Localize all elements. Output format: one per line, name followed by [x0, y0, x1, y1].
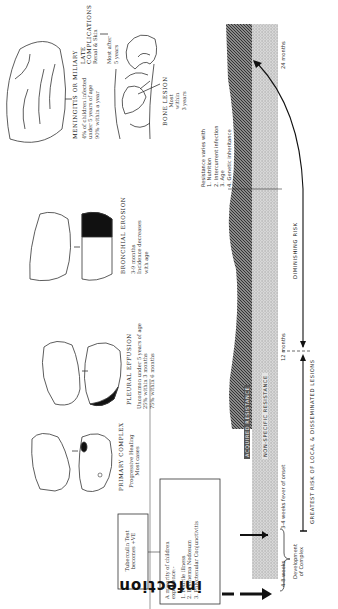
stage-primary-complex: PRIMARY COMPLEX Progressive Healing Most…: [118, 431, 141, 491]
stage-note: Most cases: [134, 431, 140, 491]
stage-bone-lesion: BONE LESION Most within 3 years: [162, 71, 187, 131]
minority-item: 3. Phlyctenular Conjunctivitis: [193, 521, 199, 599]
tuberculin-test-box: Tuberculin Test becomes +VE: [124, 517, 137, 585]
lung-bronchial-erosion: [30, 212, 112, 280]
stage-note: 3 years: [181, 71, 187, 131]
stage-subtitle: Renal & Skin: [92, 4, 98, 64]
minority-heading: A minority of children experience:-: [164, 521, 177, 599]
stage-late-complications: LATE COMPLICATIONS Renal & Skin Most aft…: [80, 4, 119, 64]
infection-arrow: [222, 588, 272, 600]
stage-title: PLEURAL EFFUSION: [126, 329, 132, 409]
lung-primary-complex: [32, 433, 112, 491]
stage-note: 75% within 6 months: [149, 329, 155, 409]
marker-4-8-weeks: 4-8 weeks: [280, 561, 286, 587]
minority-box: A minority of children experience:- 1. F…: [164, 521, 199, 599]
stage-title: MENINGITIS OR MILIARY: [72, 49, 78, 139]
tb-timetable-diagram: infection Tuberculin Test becomes +VE A …: [0, 0, 338, 609]
greatest-risk-label: GREATEST RISK OF LOCAL & DISSEMINATED LE…: [309, 359, 315, 524]
marker-12-months: 12 months: [280, 333, 286, 361]
stage-pleural-effusion: PLEURAL EFFUSION Uncommon under 5 years …: [126, 329, 155, 409]
stage-bronchial-erosion: BRONCHIAL EROSION 3-9 months Incidence d…: [120, 194, 149, 274]
acquired-resistance-label: ACQUIRED RESISTANCE: [244, 385, 250, 459]
stage-title: PRIMARY COMPLEX: [118, 431, 124, 491]
brain-illustration: [7, 42, 72, 143]
resistance-factor: 4. Genetic inheritance: [226, 125, 232, 187]
lung-pleural-effusion: [42, 341, 121, 405]
nonspecific-resistance-label: NON-SPECIFIC RESISTANCE: [262, 373, 268, 459]
development-of-complex-label: Development of Complex: [292, 544, 305, 579]
diminishing-risk-label: DIMINISHING RISK: [292, 222, 298, 279]
stage-note: with age: [143, 194, 149, 274]
stage-note: 5 years: [113, 4, 119, 64]
marker-fever-onset: 3-4 weeks fever of onset: [280, 465, 286, 529]
resistance-band: [226, 24, 282, 579]
resistance-factors: Resistance varies with 1. Nutrition 2. I…: [200, 125, 232, 187]
stage-title: LATE COMPLICATIONS: [80, 4, 92, 64]
bone-illustration: [115, 64, 160, 139]
stage-title: BRONCHIAL EROSION: [120, 194, 126, 274]
marker-24-months: 24 months: [280, 41, 286, 69]
